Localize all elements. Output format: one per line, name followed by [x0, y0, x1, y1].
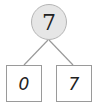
- part-box-right: 7: [56, 65, 92, 102]
- part-value-left: 0: [19, 74, 30, 94]
- right-connector: [49, 40, 73, 65]
- left-connector: [24, 40, 48, 65]
- part-box-left: 0: [6, 65, 42, 102]
- whole-circle: 7: [31, 4, 67, 40]
- whole-value: 7: [42, 10, 56, 35]
- part-value-right: 7: [69, 74, 80, 94]
